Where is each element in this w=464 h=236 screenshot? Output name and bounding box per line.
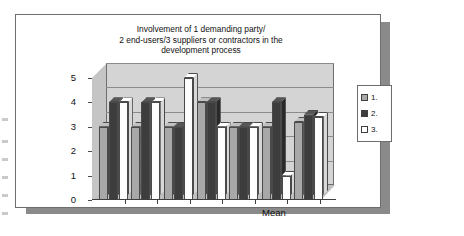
bar-series-1-group-7 [294, 122, 303, 200]
bar-front-face [294, 122, 303, 200]
bar-series-3-group-6 [282, 176, 291, 200]
bar-front-face [239, 127, 248, 200]
bar-side-face [323, 112, 328, 195]
scan-artifact [2, 194, 8, 197]
bar-series-3-group-3 [184, 78, 193, 200]
y-tick-mark-4 [88, 102, 92, 103]
bar-series-1-group-3 [164, 127, 173, 200]
bar-series-3-group-4 [217, 127, 226, 200]
bar-front-face [131, 127, 140, 200]
legend-item-2: 2. [361, 107, 378, 119]
y-tick-label-4: 4 [60, 96, 76, 107]
bar-series-1-group-2 [131, 127, 140, 200]
chart-title-line-2: 2 end-users/3 suppliers or contractors i… [56, 35, 346, 46]
bar-series-1-group-1 [99, 127, 108, 200]
x-axis-line [92, 199, 336, 200]
bar-front-face [282, 176, 291, 200]
bar-series-1-group-4 [197, 102, 206, 200]
legend-label-3: 3. [371, 125, 378, 134]
bar-front-face [314, 117, 323, 200]
bar-series-3-group-2 [151, 102, 160, 200]
bar-front-face [119, 102, 128, 200]
bar-front-face [151, 102, 160, 200]
legend-swatch-series-2 [361, 110, 368, 117]
chart-legend: 1.2.3. [357, 85, 392, 142]
scan-artifact [2, 212, 8, 215]
legend-label-2: 2. [371, 109, 378, 118]
screenshot-root: Involvement of 1 demanding party/ 2 end-… [0, 0, 464, 236]
bar-series-3-group-5 [249, 127, 258, 200]
legend-swatch-series-3 [361, 126, 368, 133]
bar-series-3-group-7 [314, 117, 323, 200]
bar-front-face [217, 127, 226, 200]
x-tick-1 [157, 199, 158, 204]
bar-front-face [197, 102, 206, 200]
bar-series-1-group-5 [229, 127, 238, 200]
y-tick-label-1: 1 [60, 170, 76, 181]
chart-card: Involvement of 1 demanding party/ 2 end-… [15, 14, 381, 208]
y-tick-label-5: 5 [60, 72, 76, 83]
legend-label-1: 1. [371, 93, 378, 102]
chart-title: Involvement of 1 demanding party/ 2 end-… [56, 24, 346, 56]
bar-front-face [304, 115, 313, 200]
bar-front-face [229, 127, 238, 200]
scan-artifact [2, 158, 8, 161]
x-tick-4 [255, 199, 256, 204]
chart-title-line-1: Involvement of 1 demanding party/ [56, 24, 346, 35]
x-tick-6 [320, 199, 321, 204]
scan-artifact [2, 176, 8, 179]
gridline-5 [106, 63, 334, 64]
legend-item-3: 3. [361, 123, 378, 135]
y-tick-mark-5 [88, 78, 92, 79]
bar-front-face [164, 127, 173, 200]
bar-series-2-group-4 [207, 102, 216, 200]
bar-front-face [174, 127, 183, 200]
bar-series-2-group-3 [174, 127, 183, 200]
x-tick-2 [190, 199, 191, 204]
scan-artifact [2, 140, 8, 143]
legend-item-1: 1. [361, 91, 378, 103]
bar-series-2-group-5 [239, 127, 248, 200]
bar-front-face [249, 127, 258, 200]
scan-artifact [2, 118, 8, 121]
y-tick-label-2: 2 [60, 145, 76, 156]
x-axis-label-mean: Mean [262, 207, 286, 218]
x-tick-0 [125, 199, 126, 204]
x-tick-3 [222, 199, 223, 204]
y-tick-label-0: 0 [60, 194, 76, 205]
bar-front-face [207, 102, 216, 200]
bar-series-2-group-6 [272, 102, 281, 200]
bar-front-face [262, 127, 271, 200]
x-tick-5 [287, 199, 288, 204]
bar-front-face [272, 102, 281, 200]
plot-area: Mean [92, 63, 340, 200]
bar-front-face [184, 78, 193, 200]
bar-front-face [99, 127, 108, 200]
bar-front-face [109, 102, 118, 200]
bar-series-1-group-6 [262, 127, 271, 200]
y-tick-mark-2 [88, 151, 92, 152]
bar-series-3-group-1 [119, 102, 128, 200]
bar-series-2-group-7 [304, 115, 313, 200]
y-tick-label-3: 3 [60, 121, 76, 132]
bar-series-2-group-1 [109, 102, 118, 200]
gridline-4 [106, 87, 334, 88]
chart-title-line-3: development process [56, 45, 346, 56]
bar-series-2-group-2 [141, 102, 150, 200]
y-tick-mark-1 [88, 176, 92, 177]
legend-swatch-series-1 [361, 94, 368, 101]
bar-front-face [141, 102, 150, 200]
y-tick-mark-0 [88, 200, 92, 201]
y-tick-mark-3 [88, 127, 92, 128]
